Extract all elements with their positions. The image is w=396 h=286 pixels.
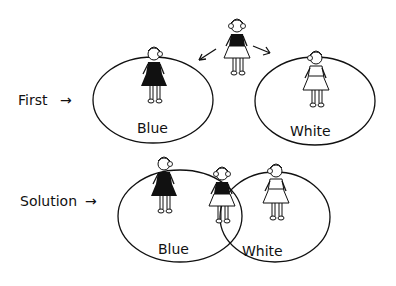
girl-mixed-dress-figure (209, 167, 235, 223)
blue-set-label: Blue (158, 241, 189, 257)
solution-row: Solution → Blue White (20, 157, 330, 262)
girl-mixed-dress-figure (224, 19, 250, 75)
first-row: First → Blue White (18, 19, 375, 145)
venn-diagram: First → Blue White Solution → Blue White (0, 0, 396, 286)
solution-row-label: Solution (20, 193, 77, 209)
arrow-to-blue-icon (199, 49, 216, 60)
girl-dark-dress-figure (141, 47, 167, 103)
girl-dark-dress-figure (151, 157, 177, 213)
white-set-label: White (290, 123, 331, 139)
girl-white-dress-figure (303, 51, 329, 107)
arrow-to-white-icon (253, 46, 270, 55)
right-arrow-icon: → (60, 92, 72, 108)
first-row-label: First (18, 92, 48, 108)
blue-set-label: Blue (137, 120, 168, 136)
right-arrow-icon: → (85, 193, 97, 209)
white-set-label: White (242, 243, 283, 259)
